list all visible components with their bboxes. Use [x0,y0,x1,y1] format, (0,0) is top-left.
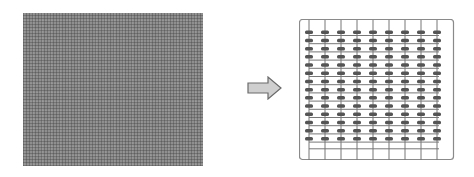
grid-component [337,96,345,100]
grid-component [417,129,425,133]
grid-component [385,39,393,43]
grid-component [369,96,377,100]
grid-component [385,31,393,35]
grid-component [321,72,329,76]
grid-component [337,31,345,35]
grid-component [337,55,345,59]
grid-component [305,96,313,100]
grid-component [417,72,425,76]
grid-component [305,113,313,117]
grid-component [401,104,409,108]
grid-component [353,31,361,35]
grid-component [385,55,393,59]
grid-component [353,63,361,67]
grid-component [305,137,313,141]
grid-component [433,47,441,51]
grid-component [433,137,441,141]
grid-component [353,47,361,51]
grid-component [369,121,377,125]
grid-component [353,88,361,92]
grid-component [369,113,377,117]
grid-component [433,104,441,108]
grid-component [337,72,345,76]
grid-component [417,80,425,84]
grid-component [401,88,409,92]
grid-component [321,80,329,84]
grid-component [321,137,329,141]
grid-component [337,104,345,108]
grid-component [321,55,329,59]
grid-component [369,104,377,108]
grid-component [305,72,313,76]
grid-component [433,113,441,117]
grid-component [369,55,377,59]
grid-component [417,39,425,43]
grid-component [433,88,441,92]
grid-component [353,121,361,125]
grid-component [321,39,329,43]
grid-component [369,39,377,43]
grid-component [401,31,409,35]
grid-component [321,96,329,100]
grid-component [305,104,313,108]
grid-component [337,113,345,117]
grid-component [401,39,409,43]
grid-component [321,104,329,108]
grid-component [369,31,377,35]
grid-component [385,129,393,133]
grid-component [385,88,393,92]
grid-component [337,121,345,125]
grid-component [385,47,393,51]
grid-component [369,129,377,133]
grid-component [321,63,329,67]
grid-component [433,72,441,76]
grid-component [385,72,393,76]
grid-component [401,96,409,100]
dense-grid-panel [23,13,203,166]
grid-component [401,80,409,84]
grid-component [369,72,377,76]
grid-component [321,129,329,133]
grid-component [401,137,409,141]
grid-component [305,121,313,125]
grid-component [401,55,409,59]
grid-component [433,39,441,43]
grid-component [321,88,329,92]
grid-component [353,39,361,43]
grid-component [401,72,409,76]
grid-component [353,129,361,133]
grid-component [305,47,313,51]
grid-component [369,80,377,84]
grid-component [433,129,441,133]
grid-component [385,121,393,125]
grid-component [353,96,361,100]
grid-component [417,31,425,35]
grid-component [417,113,425,117]
grid-component [337,80,345,84]
grid-component [337,129,345,133]
component-grid [300,20,454,161]
grid-component [353,55,361,59]
grid-component [385,80,393,84]
grid-component [337,137,345,141]
grid-component [433,121,441,125]
grid-component [433,31,441,35]
grid-component [417,137,425,141]
grid-component [369,63,377,67]
grid-component [369,47,377,51]
grid-component [305,39,313,43]
grid-component [321,121,329,125]
grid-component [321,47,329,51]
grid-component [305,63,313,67]
grid-component [337,63,345,67]
grid-component [369,88,377,92]
grid-component [353,72,361,76]
grid-component [305,88,313,92]
grid-component [417,88,425,92]
grid-component [305,80,313,84]
right-arrow-icon [247,76,283,100]
grid-component [433,96,441,100]
grid-component [417,63,425,67]
grid-component [321,113,329,117]
grid-component [305,55,313,59]
